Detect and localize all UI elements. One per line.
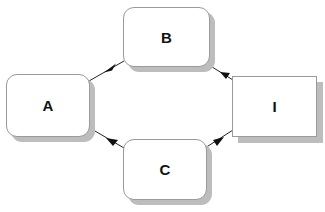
arrowhead-icon [213,137,224,146]
node-b-label: B [161,29,172,46]
node-b[interactable]: B [123,7,210,67]
arrowhead-icon [106,138,118,146]
node-i[interactable]: I [232,76,317,137]
edge-b-to-a [89,61,124,81]
node-i-label: I [272,98,276,115]
node-c[interactable]: C [123,139,207,200]
arrowhead-icon [104,64,116,73]
node-a-label: A [43,97,54,114]
edge-c-to-a [95,131,124,148]
arrowhead-icon [220,72,230,79]
node-a[interactable]: A [6,74,90,137]
edge-i-to-b [209,65,233,80]
node-c-label: C [160,161,171,178]
diagram-canvas: A B C I [0,0,325,212]
edge-i-to-c [205,130,233,148]
